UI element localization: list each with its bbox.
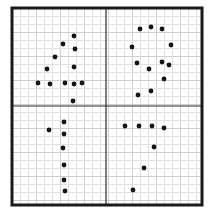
- dot: [150, 124, 155, 129]
- dot: [160, 60, 165, 65]
- dot: [62, 178, 67, 183]
- dot: [47, 128, 52, 133]
- dot: [131, 188, 136, 193]
- dot: [137, 124, 142, 129]
- dot: [149, 89, 154, 94]
- dot: [36, 81, 41, 86]
- dot: [147, 67, 152, 72]
- dot: [62, 132, 67, 137]
- dot: [72, 34, 77, 39]
- quadrant-bottom-left: [47, 120, 68, 194]
- dot: [160, 27, 165, 32]
- four-quadrant-dot-diagram: [0, 0, 214, 214]
- dot: [130, 45, 135, 50]
- dot: [62, 120, 67, 125]
- dot: [45, 67, 50, 72]
- dot: [162, 77, 167, 82]
- dot: [149, 25, 154, 30]
- dot: [62, 163, 67, 168]
- dot-grid-figure: [0, 0, 214, 214]
- dot: [80, 81, 85, 86]
- dot: [138, 27, 143, 32]
- dot: [71, 99, 76, 104]
- dot: [53, 55, 58, 60]
- dot: [152, 145, 157, 150]
- dot: [63, 81, 68, 86]
- dot: [123, 124, 128, 129]
- dot: [63, 189, 68, 194]
- dot: [167, 63, 172, 68]
- dot: [142, 166, 147, 171]
- quadrant-bottom-right: [123, 124, 167, 193]
- dot: [162, 126, 167, 131]
- quadrant-dividers: [12, 8, 202, 205]
- dot: [136, 93, 141, 98]
- dot: [61, 146, 66, 151]
- dot: [73, 47, 78, 52]
- quadrant-top-right: [130, 25, 174, 98]
- dot: [169, 43, 174, 48]
- dot: [72, 65, 77, 70]
- dot: [135, 61, 140, 66]
- dot: [72, 82, 77, 87]
- dot: [61, 42, 66, 47]
- dot: [48, 82, 53, 87]
